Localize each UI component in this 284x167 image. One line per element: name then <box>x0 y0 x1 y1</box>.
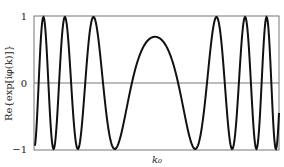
y-tick-top: 1 <box>21 11 27 22</box>
chart: 1 0 −1 k₀ Re{exp[iφ(k)]} <box>0 0 284 167</box>
y-axis-label: Re{exp[iφ(k)]} <box>3 45 14 121</box>
y-tick-zero: 0 <box>21 78 27 89</box>
y-tick-bottom: −1 <box>12 144 27 155</box>
x-axis-label: k₀ <box>152 154 162 165</box>
